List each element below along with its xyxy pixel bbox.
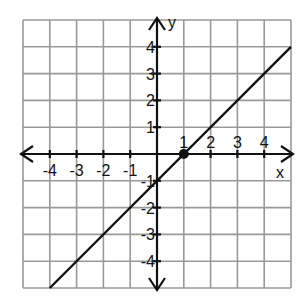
x-axis-label: x: [276, 164, 284, 181]
svg-text:1: 1: [179, 134, 188, 151]
svg-text:4: 4: [146, 39, 155, 56]
svg-text:-2: -2: [141, 200, 155, 217]
y-axis-label: y: [168, 14, 176, 31]
svg-text:-4: -4: [43, 162, 57, 179]
svg-text:-3: -3: [69, 162, 83, 179]
svg-text:2: 2: [206, 134, 215, 151]
svg-text:1: 1: [146, 119, 155, 136]
svg-text:-1: -1: [141, 173, 155, 190]
svg-text:-1: -1: [123, 162, 137, 179]
coordinate-plane: -4-3-2-112344321-1-2-3-4 x y: [0, 0, 302, 300]
data-line: [50, 47, 291, 288]
axes: [21, 18, 293, 290]
intercept-point: [179, 149, 189, 159]
svg-text:-4: -4: [141, 253, 155, 270]
svg-text:3: 3: [146, 66, 155, 83]
svg-text:2: 2: [146, 92, 155, 109]
svg-text:4: 4: [260, 134, 269, 151]
svg-text:-3: -3: [141, 226, 155, 243]
svg-text:3: 3: [233, 134, 242, 151]
svg-text:-2: -2: [96, 162, 110, 179]
